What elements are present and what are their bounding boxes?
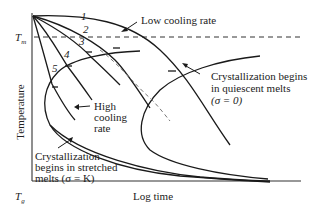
diagram-canvas: 1 2 3 4 5 Tm Tg Temperature Log time Low… — [0, 0, 313, 215]
stretched-arrow — [58, 140, 70, 148]
high-cooling-arrow — [78, 106, 90, 107]
curve-label-4: 4 — [64, 48, 70, 60]
quiescent-arrowhead — [182, 63, 188, 68]
crystallization-diagram: 1 2 3 4 5 Tm Tg Temperature Log time Low… — [0, 0, 313, 215]
low-cooling-label: Low cooling rate — [141, 14, 216, 26]
curve-label-3: 3 — [78, 35, 85, 47]
curve-label-5: 5 — [52, 62, 58, 74]
quiescent-label-1: Crystallization begins — [211, 70, 307, 82]
cooling-curve-2 — [33, 16, 150, 108]
tm-label: Tm — [15, 31, 26, 46]
x-axis-label: Log time — [133, 190, 173, 202]
stretched-label-3: melts (σ = K) — [35, 172, 95, 185]
tg-label: Tg — [15, 190, 25, 205]
y-axis-label: Temperature — [14, 84, 26, 140]
curve-label-1: 1 — [81, 10, 87, 22]
high-cooling-label-3: rate — [94, 122, 111, 134]
curve-label-2: 2 — [83, 23, 89, 35]
cooling-curve-3 — [33, 16, 120, 85]
quiescent-label-3: (σ = 0) — [211, 94, 243, 107]
quiescent-label-2: in quiescent melts — [211, 82, 290, 94]
high-cooling-arrowhead — [74, 104, 79, 110]
